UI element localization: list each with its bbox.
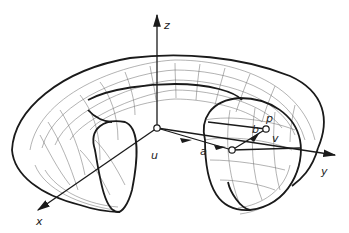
point-u-label: u [151,150,158,161]
point-p-label: p [266,113,273,124]
point-b-label: b [252,124,259,135]
point-v-label: v [272,133,279,144]
point-a [229,147,235,153]
point-a-label: a [200,146,207,157]
point-p [263,126,269,132]
point-u [154,125,160,131]
z-axis-label: z [164,20,170,31]
y-axis-label: y [321,166,328,177]
direction-arrows [180,132,260,150]
x-axis-label: x [36,216,43,227]
torus-figure [0,0,349,233]
x-axis [38,128,157,210]
torus-diagram: z y x u a b p v [0,0,349,233]
